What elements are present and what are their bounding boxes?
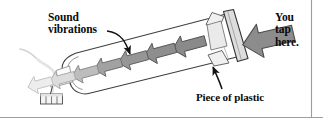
sound-vibrations-diagram: Sound vibrations You tap here. Piece of … — [0, 0, 323, 124]
you-tap-here-label-line1: You — [275, 11, 299, 23]
vibration-arrow-7 — [26, 72, 55, 95]
sound-vibrations-label-line1: Sound — [48, 11, 97, 23]
you-tap-here-label-line2: tap — [275, 23, 299, 35]
sound-vibrations-label-line2: vibrations — [48, 23, 97, 35]
you-tap-here-label-line3: here. — [275, 36, 299, 48]
you-tap-here-label: You tap here. — [275, 11, 299, 48]
piece-of-plastic-leader — [213, 67, 222, 89]
piece-of-plastic-label: Piece of plastic — [196, 92, 264, 104]
sound-vibrations-label: Sound vibrations — [48, 11, 97, 36]
